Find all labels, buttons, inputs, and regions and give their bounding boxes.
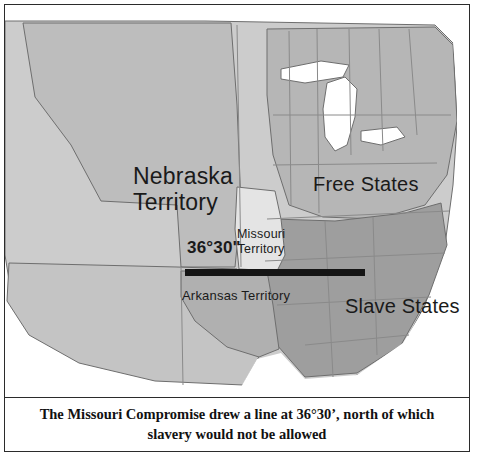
map-area: Nebraska Territory Free States Slave Sta…: [5, 5, 469, 397]
label-missouri-line2: Territory: [237, 242, 285, 257]
label-slave-states: Slave States: [345, 295, 460, 318]
caption-box: The Missouri Compromise drew a line at 3…: [5, 397, 469, 451]
label-latitude-36-30: 36°30": [187, 238, 241, 258]
label-arkansas-territory: Arkansas Territory: [182, 288, 290, 303]
label-free-states: Free States: [313, 173, 419, 196]
compromise-line-36-30: [185, 269, 365, 276]
label-missouri-line1: Missouri: [237, 227, 285, 241]
label-missouri-territory: Missouri Territory: [237, 227, 285, 257]
screenshot-root: Nebraska Territory Free States Slave Sta…: [0, 0, 480, 460]
label-nebraska-line1: Nebraska: [133, 163, 233, 189]
caption-text: The Missouri Compromise drew a line at 3…: [5, 405, 469, 444]
caption-line2: slavery would not be allowed: [148, 426, 327, 442]
label-nebraska-line2: Territory: [133, 189, 233, 215]
label-nebraska-territory: Nebraska Territory: [133, 163, 233, 215]
map-base-svg: [5, 5, 469, 397]
caption-line1: The Missouri Compromise drew a line at 3…: [40, 406, 435, 422]
map-frame: Nebraska Territory Free States Slave Sta…: [4, 4, 470, 452]
